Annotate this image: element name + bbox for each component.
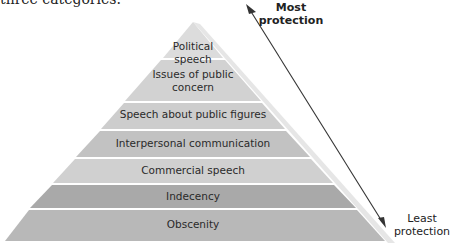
arrow-head-up-icon bbox=[246, 4, 256, 14]
label-line: Most bbox=[256, 1, 326, 14]
layer-label-speech-public-figures: Speech about public figures bbox=[120, 108, 267, 121]
label-line: Least bbox=[390, 212, 454, 225]
label-line: Issues of public bbox=[152, 68, 233, 81]
label-line: concern bbox=[152, 81, 233, 94]
least-protection-label: Least protection bbox=[390, 212, 454, 238]
layer-label-indecency: Indecency bbox=[166, 190, 220, 203]
layer-label-political-speech: Political speech bbox=[173, 40, 213, 66]
most-protection-label: Most protection bbox=[256, 1, 326, 27]
layer-label-interpersonal-communication: Interpersonal communication bbox=[116, 137, 271, 150]
layer-label-commercial-speech: Commercial speech bbox=[141, 164, 245, 177]
label-line: protection bbox=[256, 14, 326, 27]
layer-label-obscenity: Obscenity bbox=[167, 218, 220, 231]
label-line: protection bbox=[390, 225, 454, 238]
label-line: speech bbox=[173, 53, 213, 66]
layer-label-issues-public-concern: Issues of public concern bbox=[152, 68, 233, 94]
label-line: Political bbox=[173, 40, 213, 53]
protection-pyramid bbox=[0, 0, 454, 245]
